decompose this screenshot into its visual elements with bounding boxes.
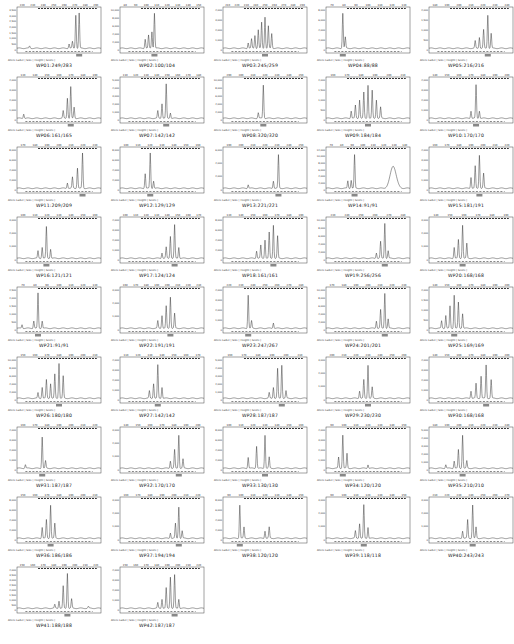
plot-frame xyxy=(120,357,204,403)
y-tick-label: 0 xyxy=(14,189,16,192)
x-tick-label: 260 xyxy=(373,214,378,217)
allele-table-header: Allele Label | Size | Height | Score | xyxy=(214,549,261,552)
y-tick-label: 8,000 xyxy=(215,87,222,90)
x-tick-label: 260 xyxy=(272,4,277,7)
y-tick-label: 2,000 xyxy=(421,9,428,12)
y-tick-label: 0 xyxy=(117,189,119,192)
x-tick-label: 240 xyxy=(345,214,350,217)
x-tick-label: 200 xyxy=(387,74,392,77)
x-tick-label: 230 xyxy=(331,214,336,217)
sample-label: WP14:91/91 xyxy=(313,203,413,208)
y-tick-label: 0 xyxy=(14,49,16,52)
sample-label: WP42:187/187 xyxy=(107,623,207,628)
x-tick-label: 200 xyxy=(172,494,177,497)
trace-plot: 15016017018019020021022001,0002,0003,000… xyxy=(107,562,207,620)
allele-call-marker xyxy=(365,124,371,127)
x-tick-label: 170 xyxy=(33,424,38,427)
y-tick-label: 4,000 xyxy=(112,87,119,90)
x-tick-label: 210 xyxy=(184,494,189,497)
y-tick-label: 0 xyxy=(117,49,119,52)
allele-call-marker xyxy=(361,544,367,547)
x-tick-label: 230 xyxy=(493,4,498,7)
x-tick-label: 120 xyxy=(136,354,141,357)
x-tick-label: 160 xyxy=(33,354,38,357)
y-tick-label: 0 xyxy=(323,189,325,192)
allele-call-marker xyxy=(365,404,371,407)
y-tick-label: 1,000 xyxy=(421,29,428,32)
x-tick-label: 230 xyxy=(93,144,98,147)
y-tick-label: 4,000 xyxy=(215,367,222,370)
y-tick-label: 0 xyxy=(426,399,428,402)
y-tick-label: 500 xyxy=(11,604,16,607)
allele-call-marker xyxy=(260,124,266,127)
plot-frame xyxy=(429,147,513,193)
x-tick-label: 160 xyxy=(33,494,38,497)
x-tick-label: 100 xyxy=(144,4,149,7)
x-tick-label: 170 xyxy=(144,564,149,567)
electropherogram-panel: 16017018019020021022001,0002,0003,000All… xyxy=(107,492,207,562)
allele-table-header: Allele Label | Size | Height | Score | xyxy=(8,549,55,552)
x-tick-label: 190 xyxy=(504,214,509,217)
x-tick-label: 200 xyxy=(505,284,510,287)
sample-label: WP35:210/210 xyxy=(416,483,514,488)
x-tick-label: 190 xyxy=(354,284,359,287)
y-tick-label: 1,000 xyxy=(421,245,428,248)
plot-frame xyxy=(326,427,410,473)
x-tick-label: 220 xyxy=(196,494,201,497)
allele-table-header: Allele Label | Size | Height | Score | xyxy=(214,269,261,272)
y-tick-label: 0 xyxy=(117,119,119,122)
allele-table-header: Allele Label | Size | Height | Score | xyxy=(111,619,158,622)
y-tick-label: 3,000 xyxy=(112,289,119,292)
electropherogram-panel: 9010011012013014015001,0002,0003,000Alle… xyxy=(313,492,413,562)
sample-label: WP21:91/91 xyxy=(4,343,104,348)
y-tick-label: 2,000 xyxy=(9,297,16,300)
y-tick-label: 4,000 xyxy=(318,243,325,246)
x-tick-label: 120 xyxy=(366,494,371,497)
x-tick-label: 150 xyxy=(136,424,141,427)
plot-frame xyxy=(326,357,410,403)
trace-plot: 29030031032033034035002,0004,0006,0008,0… xyxy=(210,72,310,130)
y-tick-label: 1,500 xyxy=(9,305,16,308)
plot-frame xyxy=(17,427,101,473)
sample-label: WP37:194/194 xyxy=(107,553,207,558)
x-tick-label: 100 xyxy=(366,4,371,7)
x-tick-label: 150 xyxy=(81,214,86,217)
sample-label: WP08:320/320 xyxy=(210,133,310,138)
y-tick-label: 3,000 xyxy=(318,359,325,362)
x-tick-label: 200 xyxy=(366,284,371,287)
sample-label: WP05:216/216 xyxy=(416,63,514,68)
x-tick-label: 220 xyxy=(445,494,450,497)
y-tick-label: 0 xyxy=(323,539,325,542)
x-tick-label: 270 xyxy=(505,494,510,497)
trace-plot: 21022023024025026027028029001,0002,0003,… xyxy=(210,2,310,60)
y-tick-label: 0 xyxy=(14,259,16,262)
trace-plot: 16017018019020021022023001,0002,0003,000 xyxy=(107,282,207,340)
electropherogram-panel: 16017018019020021005001,0001,5002,000All… xyxy=(313,72,413,142)
x-tick-label: 220 xyxy=(481,4,486,7)
y-tick-label: 4,000 xyxy=(215,289,222,292)
y-tick-label: 2,500 xyxy=(9,584,16,587)
allele-call-marker xyxy=(476,194,482,197)
plot-frame xyxy=(429,77,513,123)
x-tick-label: 220 xyxy=(390,284,395,287)
x-tick-label: 200 xyxy=(81,354,86,357)
plot-frame xyxy=(120,147,204,193)
x-tick-label: 210 xyxy=(186,564,191,567)
x-tick-label: 210 xyxy=(93,494,98,497)
x-tick-label: 300 xyxy=(239,74,244,77)
electropherogram-panel: 15016017018019020021002,0004,0006,0008,0… xyxy=(4,352,104,422)
x-tick-label: 210 xyxy=(401,74,406,77)
x-tick-label: 90 xyxy=(134,4,138,7)
trace-plot: 21022023024025026027001,0002,0003,000 xyxy=(416,492,514,550)
y-tick-label: 0 xyxy=(426,539,428,542)
x-tick-label: 170 xyxy=(345,74,350,77)
sample-label: WP10:170/170 xyxy=(416,133,514,138)
y-tick-label: 4,000 xyxy=(9,383,16,386)
y-tick-label: 3,000 xyxy=(421,499,428,502)
x-tick-label: 180 xyxy=(481,284,486,287)
x-tick-label: 150 xyxy=(123,564,128,567)
x-tick-label: 150 xyxy=(402,494,407,497)
y-tick-label: 4,000 xyxy=(112,359,119,362)
x-tick-label: 110 xyxy=(123,74,128,77)
plot-frame xyxy=(17,287,101,333)
